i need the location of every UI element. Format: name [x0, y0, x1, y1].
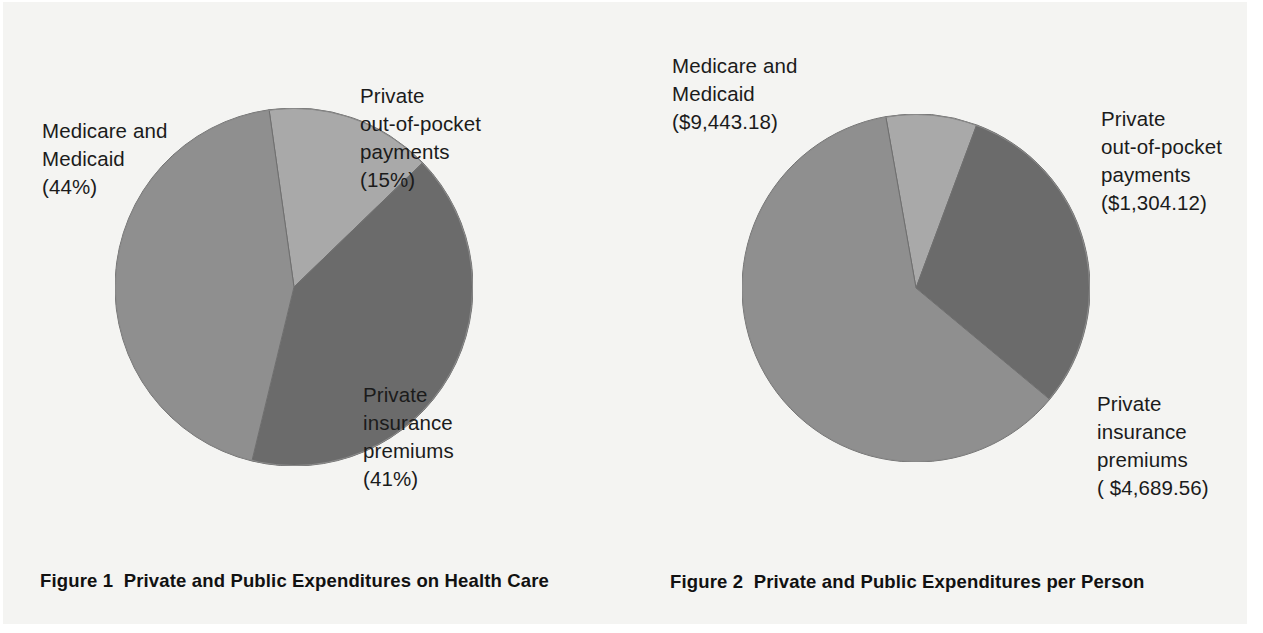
label-medicare-figure-2: Medicare and Medicaid ($9,443.18) [672, 52, 862, 136]
label-medicare-figure-1: Medicare and Medicaid (44%) [42, 117, 217, 201]
label-out-of-pocket-figure-1: Private out-of-pocket payments (15%) [360, 82, 540, 194]
figure-2: Medicare and Medicaid ($9,443.18) Privat… [631, 0, 1263, 633]
pie-chart-figure-2 [742, 114, 1090, 462]
label-out-of-pocket-figure-2: Private out-of-pocket payments ($1,304.1… [1101, 105, 1263, 217]
page-root: Medicare and Medicaid (44%) Private out-… [0, 0, 1263, 633]
label-insurance-figure-1: Private insurance premiums (41%) [363, 381, 543, 493]
caption-figure-2: Figure 2 Private and Public Expenditures… [670, 571, 1145, 593]
figure-1: Medicare and Medicaid (44%) Private out-… [0, 0, 631, 633]
pie-svg-figure-2 [742, 114, 1090, 462]
caption-figure-1: Figure 1 Private and Public Expenditures… [40, 570, 549, 592]
label-insurance-figure-2: Private insurance premiums ( $4,689.56) [1097, 390, 1263, 502]
